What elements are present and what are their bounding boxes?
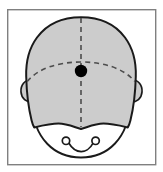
head-diagram-canvas	[0, 0, 163, 172]
head-diagram-figure: Frontal view of head with vertex landmar…	[0, 0, 163, 172]
nostril-right-icon	[92, 137, 99, 144]
nostril-left-icon	[62, 137, 69, 144]
vertex-landmark-dot	[75, 65, 87, 77]
